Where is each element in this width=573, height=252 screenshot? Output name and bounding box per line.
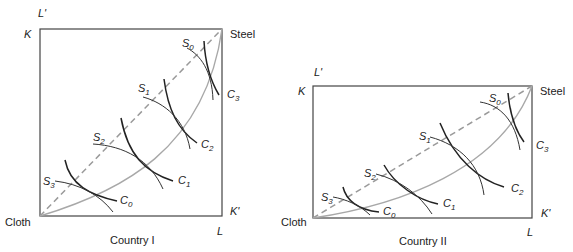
cloth-isoquant-c0	[65, 160, 117, 201]
corner-label-cloth: Cloth	[5, 216, 31, 228]
label-s3: S3	[321, 191, 333, 206]
label-c1: C1	[178, 174, 190, 189]
edgeworth-box-diagrams: L' K Steel K' L Cloth Country I C0 C1 C2…	[0, 0, 573, 252]
cloth-isoquant-c2	[440, 123, 504, 187]
label-c3: C3	[227, 88, 240, 103]
steel-isoquant-s1	[143, 97, 190, 149]
label-c0: C0	[120, 194, 133, 209]
corner-label-l-prime: L'	[38, 7, 47, 19]
steel-isoquant-s3	[333, 197, 370, 215]
label-s1: S1	[419, 130, 431, 145]
label-s1: S1	[138, 82, 150, 97]
label-c1: C1	[443, 197, 455, 212]
diagonal-line	[40, 29, 222, 216]
corner-label-k: K	[24, 28, 32, 40]
label-c2: C2	[201, 138, 214, 153]
panel-caption: Country II	[399, 235, 447, 247]
corner-label-steel: Steel	[230, 28, 255, 40]
label-s2: S2	[364, 167, 376, 182]
corner-label-steel: Steel	[540, 85, 565, 97]
corner-label-k: K	[298, 85, 306, 97]
panel-caption: Country I	[110, 234, 155, 246]
steel-isoquant-s1	[430, 137, 484, 195]
label-c3: C3	[536, 139, 549, 154]
corner-label-l-prime: L'	[314, 66, 323, 78]
corner-label-l: L	[217, 225, 223, 237]
label-s3: S3	[43, 175, 55, 190]
steel-isoquant-s3	[55, 181, 113, 212]
label-s0: S0	[182, 37, 194, 52]
corner-label-l: L	[527, 226, 533, 238]
steel-isoquant-s0	[480, 102, 520, 150]
panel-country-2: L' K Steel K' L Cloth Country II C0 C1 C…	[281, 66, 565, 247]
panel-country-1: L' K Steel K' L Cloth Country I C0 C1 C2…	[5, 7, 255, 246]
label-c2: C2	[511, 182, 524, 197]
corner-label-k-prime: K'	[230, 205, 240, 217]
corner-label-k-prime: K'	[541, 207, 551, 219]
corner-label-cloth: Cloth	[281, 216, 307, 228]
